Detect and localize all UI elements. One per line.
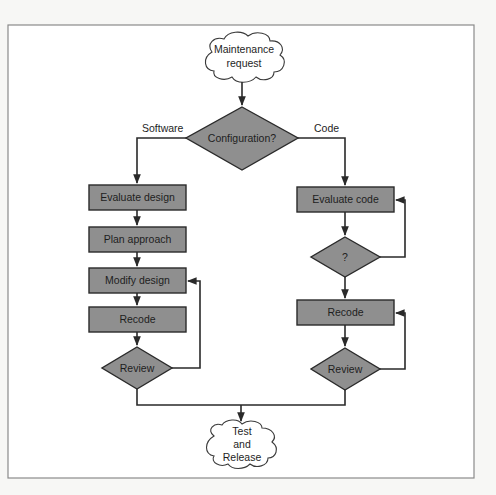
end-label-line3: Release — [223, 451, 262, 463]
step-evaluate-design: Evaluate design — [89, 185, 186, 210]
step-recode-code: Recode — [297, 300, 394, 325]
step-label: Modify design — [105, 274, 170, 286]
start-label-line1: Maintenance — [214, 43, 274, 55]
start-label-line2: request — [226, 57, 261, 69]
end-label-line1: Test — [232, 425, 251, 437]
step-modify-design: Modify design — [89, 268, 186, 293]
check-label: ? — [342, 251, 348, 263]
review-label: Review — [120, 362, 155, 374]
step-label: Plan approach — [104, 233, 172, 245]
step-label: Evaluate code — [312, 193, 379, 205]
step-evaluate-code: Evaluate code — [297, 187, 394, 212]
flowchart-diagram: Maintenance request Configuration? Softw… — [0, 0, 496, 495]
branch-label-software: Software — [142, 122, 184, 134]
step-plan-approach: Plan approach — [89, 227, 186, 252]
decision-label: Configuration? — [208, 132, 276, 144]
step-label: Evaluate design — [100, 191, 175, 203]
step-recode-software: Recode — [89, 307, 186, 332]
review-label: Review — [328, 363, 363, 375]
branch-label-code: Code — [314, 122, 339, 134]
step-label: Recode — [327, 306, 363, 318]
end-label-line2: and — [233, 438, 251, 450]
step-label: Recode — [119, 313, 155, 325]
